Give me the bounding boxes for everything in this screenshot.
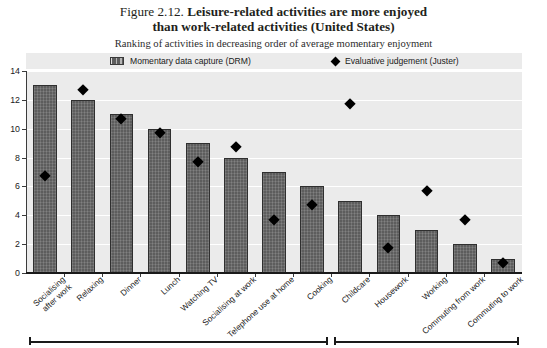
gridline [26, 71, 522, 72]
gridline [26, 100, 522, 101]
figure-title: Figure 2.12. Leisure-related activities … [0, 4, 547, 34]
figure-container: Figure 2.12. Leisure-related activities … [0, 0, 547, 348]
leisure-group-bracket [29, 341, 328, 343]
x-axis-category-label: Dinner [119, 275, 144, 298]
x-axis-category-label: Cooking [306, 275, 335, 302]
bar [148, 129, 172, 273]
y-axis-tick [22, 186, 26, 187]
chart-legend: Momentary data capture (DRM) Evaluative … [26, 53, 522, 69]
y-axis-tick [22, 215, 26, 216]
y-axis-tick-label: 0 [15, 268, 20, 278]
figure-title-line-2: than work-related activities (United Sta… [152, 19, 394, 34]
diamond-swatch-icon [331, 56, 341, 66]
bar [453, 244, 477, 273]
legend-label-evaluative: Evaluative judgement (Juster) [345, 56, 459, 66]
bar [224, 158, 248, 273]
x-axis-category-label: Telephone use at home [226, 275, 296, 340]
x-axis-category-labels: Socialisingafter workRelaxingDinnerLunch… [26, 275, 522, 333]
x-axis-category-label: Childcare [340, 275, 372, 306]
y-axis-tick [22, 71, 26, 72]
x-axis-category-label: Socialisingafter work [32, 275, 74, 316]
bar [338, 201, 362, 273]
y-axis-tick [22, 129, 26, 130]
gridline [26, 129, 522, 130]
figure-title-line-1: Leisure-related activities are more enjo… [187, 4, 427, 19]
bar [110, 114, 134, 273]
gridline [26, 158, 522, 159]
legend-entry-momentary: Momentary data capture (DRM) [110, 54, 251, 68]
x-axis-category-label: Relaxing [75, 275, 105, 304]
figure-number: Figure 2.12. [120, 4, 184, 19]
x-axis-category-label: Lunch [159, 275, 182, 297]
y-axis-line [26, 71, 27, 273]
y-axis-tick-label: 10 [10, 124, 20, 134]
y-axis-tick-label: 6 [15, 181, 20, 191]
legend-label-momentary: Momentary data capture (DRM) [130, 56, 251, 66]
leisure-group-bracket-cap-end [326, 337, 328, 345]
bar-swatch-icon [110, 57, 124, 65]
y-axis-tick-label: 8 [15, 153, 20, 163]
leisure-group-bracket-cap-start [29, 337, 31, 345]
figure-subtitle: Ranking of activities in decreasing orde… [0, 38, 547, 49]
x-axis-category-label: Housework [374, 275, 411, 310]
y-axis-tick-label: 12 [10, 95, 20, 105]
y-axis-tick [22, 244, 26, 245]
x-axis-line [26, 272, 522, 274]
y-axis-tick-label: 2 [15, 239, 20, 249]
bar [71, 100, 95, 273]
y-axis-tick-label: 14 [10, 66, 20, 76]
work-group-bracket-cap-end [517, 337, 519, 345]
work-group-bracket [334, 341, 519, 343]
plot-area [26, 71, 522, 273]
legend-entry-evaluative: Evaluative judgement (Juster) [332, 54, 459, 68]
y-axis-tick [22, 158, 26, 159]
y-axis-tick-label: 4 [15, 210, 20, 220]
x-axis-category-label: Working [420, 275, 449, 302]
work-group-bracket-cap-start [334, 337, 336, 345]
bar [415, 230, 439, 273]
y-axis-tick [22, 100, 26, 101]
